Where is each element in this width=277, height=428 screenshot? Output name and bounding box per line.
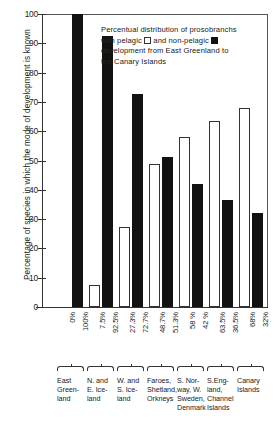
- region-name-line: E. Ice-: [87, 385, 117, 394]
- caption-line-1: Percentual distribution of prosobranchs: [101, 25, 237, 34]
- bar-pelagic: [89, 285, 100, 307]
- percent-label-non-pelagic: 42 %: [201, 312, 210, 329]
- region-name-line: Channel: [207, 394, 237, 403]
- percent-label-non-pelagic: 72.7%: [141, 312, 150, 333]
- y-tick-label: 50: [0, 156, 38, 166]
- bar-non-pelagic: [132, 94, 143, 307]
- caption-line-2-b: and non-pelagic: [153, 36, 209, 45]
- region-name-line: Shetland,: [147, 385, 177, 394]
- region-name-line: Green-: [57, 385, 87, 394]
- region-name: S. Nor-way, W.Sweden,Denmark: [177, 376, 207, 412]
- region-name-line: Islands: [237, 385, 267, 394]
- bar-non-pelagic: [222, 200, 233, 307]
- region-name: N. andE. Ice-land: [87, 376, 117, 403]
- bar-pelagic: [239, 108, 250, 307]
- region-name-line: S.Eng-: [207, 376, 237, 385]
- group-brace: [87, 366, 114, 371]
- region-name: W. andS. Ice-land: [117, 376, 147, 403]
- bar-pelagic: [179, 137, 190, 307]
- percent-label-pelagic: 63.5%: [218, 312, 227, 333]
- y-tick-label: 20: [0, 243, 38, 253]
- group-brace: [177, 366, 204, 371]
- y-tick-label: 30: [0, 214, 38, 224]
- bar-pelagic: [119, 227, 130, 307]
- y-tick-label: 90: [0, 38, 38, 48]
- region-name-line: land: [57, 394, 87, 403]
- region-name: Faroes,Shetland,Orkneys: [147, 376, 177, 403]
- bar-pelagic: [209, 121, 220, 307]
- region-name-line: land: [87, 394, 117, 403]
- y-tick-mark: [38, 307, 46, 308]
- y-axis-title: Percentage of species in which the mode …: [23, 5, 32, 305]
- region-name-line: Orkneys: [147, 394, 177, 403]
- caption-line-3: development from East Greenland to: [101, 46, 229, 55]
- percent-label-pelagic: 27.3%: [128, 312, 137, 333]
- percent-label-pelagic: 68%: [248, 312, 257, 327]
- region-name-line: Islands: [207, 403, 237, 412]
- region-name-line: Canary: [237, 376, 267, 385]
- region-name: S.Eng-land,ChannelIslands: [207, 376, 237, 412]
- percent-label-non-pelagic: 92.5%: [111, 312, 120, 333]
- region-name-line: Sweden,: [177, 394, 207, 403]
- region-name-line: Denmark: [177, 403, 207, 412]
- bar-non-pelagic: [162, 157, 173, 307]
- region-name-line: S. Nor-: [177, 376, 207, 385]
- percent-label-non-pelagic: 36.5%: [231, 312, 240, 333]
- region-name-line: land: [117, 394, 147, 403]
- group-brace: [57, 366, 84, 371]
- y-tick-label: 60: [0, 126, 38, 136]
- region-name-line: land,: [207, 385, 237, 394]
- non-pelagic-swatch-icon: [211, 37, 218, 44]
- caption-line-4: the Canary Islands: [101, 57, 166, 66]
- group-brace: [207, 366, 234, 371]
- bar-pelagic: [149, 164, 160, 307]
- percent-label-pelagic: 0%: [68, 312, 77, 323]
- percent-label-non-pelagic: 32%: [261, 312, 270, 327]
- percent-label-pelagic: 58 %: [188, 312, 197, 329]
- percent-label-pelagic: 7.5%: [98, 312, 107, 329]
- region-name-line: way, W.: [177, 385, 207, 394]
- bar-non-pelagic: [192, 184, 203, 307]
- y-tick-label: 80: [0, 68, 38, 78]
- y-tick-label: 100: [0, 9, 38, 19]
- region-name-line: S. Ice-: [117, 385, 147, 394]
- bar-non-pelagic: [102, 36, 113, 307]
- region-name: CanaryIslands: [237, 376, 267, 394]
- group-brace: [147, 366, 174, 371]
- y-tick-label: 10: [0, 273, 38, 283]
- group-brace: [117, 366, 144, 371]
- bar-non-pelagic: [72, 14, 83, 307]
- region-name-line: W. and: [117, 376, 147, 385]
- chart-caption: Percentual distribution of prosobranchs …: [101, 25, 261, 67]
- percent-label-non-pelagic: 100%: [81, 312, 90, 331]
- region-name: EastGreen-land: [57, 376, 87, 403]
- caption-line-2-a: with pelagic: [101, 36, 142, 45]
- bar-non-pelagic: [252, 213, 263, 307]
- y-tick-label: 70: [0, 97, 38, 107]
- region-name-line: Faroes,: [147, 376, 177, 385]
- y-tick-label: 0: [0, 302, 38, 312]
- group-brace: [237, 366, 264, 371]
- percent-label-non-pelagic: 51.3%: [171, 312, 180, 333]
- x-axis-line: [36, 307, 268, 308]
- pelagic-swatch-icon: [144, 37, 151, 44]
- y-tick-label: 40: [0, 185, 38, 195]
- percent-label-pelagic: 48.7%: [158, 312, 167, 333]
- region-name-line: N. and: [87, 376, 117, 385]
- region-name-line: East: [57, 376, 87, 385]
